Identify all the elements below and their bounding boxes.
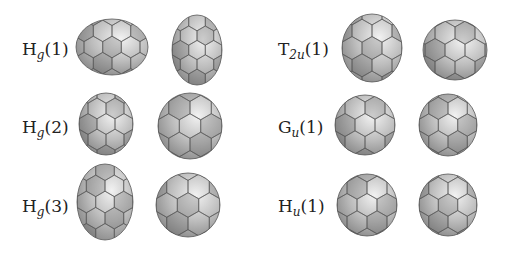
fullerene-view-hg3-1 xyxy=(75,162,135,242)
panel-label-t2u1: T2u(1) xyxy=(278,39,329,61)
label-main: G xyxy=(278,117,292,137)
label-main: T xyxy=(278,39,289,59)
label-suffix: (1) xyxy=(299,117,323,137)
panel-label-hg3: Hg(3) xyxy=(22,196,69,218)
fullerene-view-t2u1-1 xyxy=(340,12,404,84)
label-suffix: (1) xyxy=(301,196,325,216)
label-main: H xyxy=(22,196,37,216)
panel-label-hg2: Hg(2) xyxy=(22,117,69,139)
label-main: H xyxy=(22,117,37,137)
label-subscript: g xyxy=(37,48,45,62)
fullerene-view-hu1-2 xyxy=(417,172,479,238)
fullerene-view-hg2-1 xyxy=(77,91,135,157)
panel-label-hu1: Hu(1) xyxy=(278,196,325,218)
label-subscript: g xyxy=(37,126,45,140)
fullerene-view-gu1-1 xyxy=(333,93,397,157)
fullerene-view-t2u1-2 xyxy=(421,18,489,82)
label-main: H xyxy=(22,39,37,59)
fullerene-view-hg2-2 xyxy=(156,91,224,161)
fullerene-view-hu1-1 xyxy=(335,172,399,238)
fullerene-view-hg3-2 xyxy=(154,171,222,239)
label-subscript: g xyxy=(37,205,45,219)
label-suffix: (1) xyxy=(305,39,329,59)
label-suffix: (1) xyxy=(45,39,69,59)
panel-label-gu1: Gu(1) xyxy=(278,117,323,139)
label-subscript: u xyxy=(292,126,300,140)
label-subscript: u xyxy=(293,205,301,219)
label-suffix: (3) xyxy=(45,196,69,216)
label-suffix: (2) xyxy=(45,117,69,137)
label-subscript: 2u xyxy=(289,48,304,62)
fullerene-view-hg1-1 xyxy=(74,17,150,77)
fullerene-view-gu1-2 xyxy=(417,92,479,158)
panel-label-hg1: Hg(1) xyxy=(22,39,69,61)
fullerene-view-hg1-2 xyxy=(170,13,224,87)
label-main: H xyxy=(278,196,293,216)
